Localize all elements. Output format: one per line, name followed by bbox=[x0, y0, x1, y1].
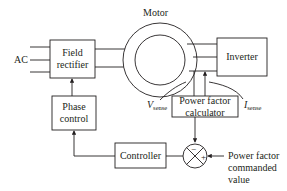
motor-stator bbox=[123, 23, 197, 97]
pf-commanded-line2: commanded bbox=[228, 162, 279, 174]
field-rectifier-label-line1: Field bbox=[50, 47, 95, 59]
inverter-label: Inverter bbox=[217, 51, 267, 63]
phase-control-label: Phase control bbox=[52, 101, 96, 125]
pf-calculator-label-line1: Power factor bbox=[172, 95, 238, 107]
field-rectifier-label-line2: rectifier bbox=[50, 59, 95, 71]
controller-to-phase-line bbox=[74, 131, 115, 156]
ac-input-lines bbox=[30, 47, 50, 72]
pf-commanded-line3: value bbox=[228, 174, 279, 186]
sum-plus-sign: + bbox=[201, 151, 206, 163]
pf-commanded-label: Power factor commanded value bbox=[228, 150, 279, 186]
pf-calculator-label: Power factor calculator bbox=[172, 95, 238, 119]
pf-commanded-line1: Power factor bbox=[228, 150, 279, 162]
sum-minus-sign: − bbox=[191, 143, 196, 155]
controller-label: Controller bbox=[115, 150, 166, 162]
i-sense-label: Isense bbox=[244, 99, 261, 114]
motor-label: Motor bbox=[143, 7, 168, 19]
rectifier-to-motor-lines bbox=[95, 49, 126, 67]
v-sense-sub: sense bbox=[153, 104, 167, 111]
field-rectifier-label: Field rectifier bbox=[50, 47, 95, 71]
v-sense-label: Vsense bbox=[147, 99, 167, 114]
pf-calculator-label-line2: calculator bbox=[172, 107, 238, 119]
phase-control-label-line2: control bbox=[52, 113, 96, 125]
ac-label: AC bbox=[14, 54, 28, 66]
phase-control-label-line1: Phase bbox=[52, 101, 96, 113]
i-sense-sub: sense bbox=[247, 104, 261, 111]
